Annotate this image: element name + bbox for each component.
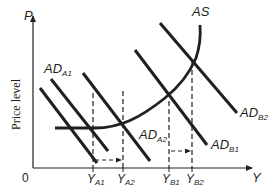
ad-a2-label: ADA2 [138,127,167,144]
ad-a1-label: ADA1 [43,61,72,78]
price-level-label: Price level [9,78,23,130]
as-label: AS [191,4,210,19]
ad-as-diagram: P Y 0 Price level AS ADA1 ADA2 ADB1 ADB2… [0,0,270,187]
ya1-label: YA1 [87,172,105,187]
yb1-label: YB1 [162,172,180,187]
yb2-label: YB2 [186,172,204,187]
ad-b2-label: ADB2 [239,105,268,122]
p-axis-label: P [24,8,33,23]
y-axis-end-label: Y [252,170,262,185]
origin-label: 0 [22,171,29,185]
ya2-label: YA2 [117,172,135,187]
ad-b1-label: ADB1 [210,137,239,154]
